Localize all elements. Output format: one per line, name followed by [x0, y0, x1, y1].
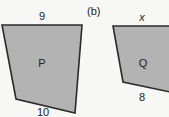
p-bottom-side-label: 10: [37, 106, 49, 117]
p-shape-label: P: [38, 57, 45, 69]
diagram-canvas: 9 P 10 (b) x Q 8: [0, 0, 169, 117]
q-bottom-side-label: 8: [139, 91, 145, 103]
q-shape-label: Q: [139, 57, 148, 69]
quadrilateral-p: [2, 25, 82, 113]
part-b-label: (b): [87, 5, 100, 17]
q-top-side-label: x: [138, 11, 145, 23]
p-top-side-label: 9: [39, 10, 45, 22]
